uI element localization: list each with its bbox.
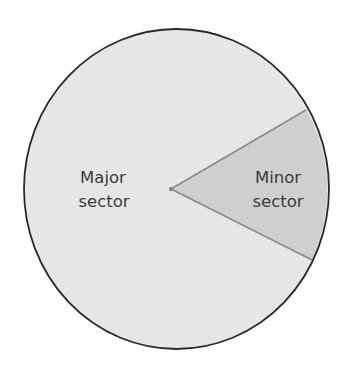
minor-sector-label-line1: Minor [255, 168, 301, 187]
center-point [169, 187, 173, 191]
circle-sector-diagram: Major sector Minor sector [0, 0, 345, 369]
major-sector-label-line2: sector [78, 192, 129, 211]
minor-sector-label-line2: sector [252, 192, 303, 211]
major-sector-label-line1: Major [80, 168, 126, 187]
